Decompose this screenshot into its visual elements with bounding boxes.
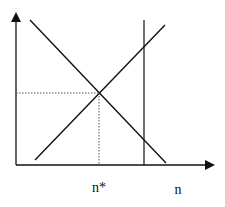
equilibrium-diagram: n* n xyxy=(0,0,225,207)
x-axis-label: n xyxy=(175,182,182,197)
downward-sloping-curve xyxy=(30,20,166,163)
equilibrium-x-label: n* xyxy=(92,180,106,195)
